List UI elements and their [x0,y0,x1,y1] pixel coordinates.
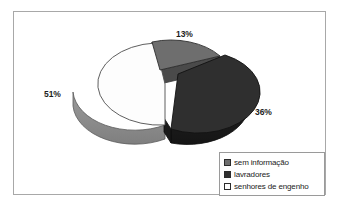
legend-label-sem-informacao: sem informação [234,158,289,167]
legend-swatch-sem-informacao [224,159,231,166]
chart-frame: 13% 36% 51% sem informação lavradores se… [13,11,326,195]
legend-label-lavradores: lavradores [234,170,270,179]
legend-swatch-lavradores [224,171,231,178]
legend-item-lavradores[interactable]: lavradores [224,168,320,180]
legend-swatch-senhores-de-engenho [224,183,231,190]
slice-top-senhores-de-engenho [98,43,165,125]
data-label-sem-informacao: 13% [176,29,193,39]
legend-label-senhores-de-engenho: senhores de engenho [234,182,309,191]
legend-item-senhores-de-engenho[interactable]: senhores de engenho [224,180,320,192]
data-label-lavradores: 36% [255,107,272,117]
legend-item-sem-informacao[interactable]: sem informação [224,156,320,168]
data-label-senhores-de-engenho: 51% [44,89,61,99]
chart-legend: sem informação lavradores senhores de en… [219,152,325,196]
